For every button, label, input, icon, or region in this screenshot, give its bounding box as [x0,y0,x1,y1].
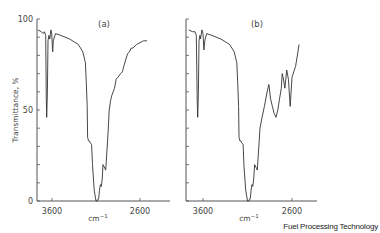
panel-b: 3600 2600 cm−1 (b) [186,19,317,223]
x-axis-label: cm−1 [88,213,108,223]
y-axis-label: Transmittance, % [11,77,20,143]
source-credit: Fuel Processing Technology [283,222,378,231]
x-tick-label-2600: 2600 [130,207,150,216]
y-tick-label-0: 0 [28,197,33,206]
x-axis-label: cm−1 [239,213,259,223]
spectrum-line-b [189,30,299,201]
x-tick-label-3600: 3600 [193,207,213,216]
panel-title-a: (a) [98,19,110,29]
x-tick-label-3600: 3600 [42,207,62,216]
panel-title-b: (b) [251,19,263,29]
panel-a: 100 50 0 3600 2600 cm−1 Transmittance, %… [11,15,170,223]
y-tick-label-50: 50 [23,106,33,115]
x-tick-label-2600: 2600 [282,207,302,216]
spectrum-line-a [38,30,147,201]
ir-spectra-figure: 100 50 0 3600 2600 cm−1 Transmittance, %… [0,0,380,233]
y-tick-label-100: 100 [18,15,33,24]
